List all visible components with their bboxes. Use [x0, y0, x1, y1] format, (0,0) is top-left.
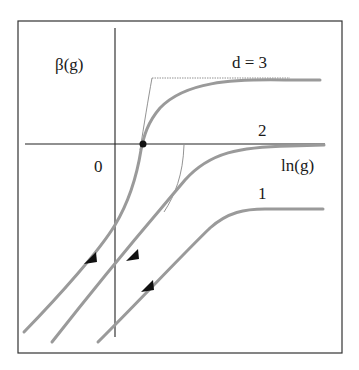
curve-label-d2: 2 [258, 121, 267, 140]
curve-label-d3: d = 3 [232, 53, 267, 72]
origin-label: 0 [94, 157, 103, 176]
d3-asymptote-bend [140, 78, 152, 150]
fixed-point-dot [140, 141, 147, 148]
arrow-icon-d1 [141, 280, 154, 292]
curve-d1 [98, 209, 323, 342]
x-axis-label: ln(g) [281, 156, 314, 175]
curve-label-d1: 1 [258, 184, 267, 203]
y-axis-label: β(g) [55, 55, 83, 74]
arrow-icon-d2 [126, 249, 139, 261]
curve-d3 [24, 80, 320, 332]
beta-function-diagram: β(g) d = 3 2 ln(g) 0 1 [0, 0, 359, 370]
arrow-icon-d3 [84, 252, 97, 264]
